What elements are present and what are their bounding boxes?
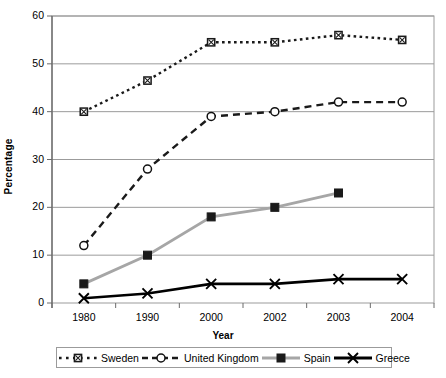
data-point-marker — [157, 354, 165, 362]
legend-label: Spain — [304, 352, 331, 364]
legend-label: United Kingdom — [184, 352, 259, 364]
legend-item-spain[interactable]: Spain — [260, 351, 332, 365]
data-point-marker — [207, 112, 215, 120]
legend-label: Greece — [376, 352, 410, 364]
data-point-marker — [144, 165, 152, 173]
figure-caption — [4, 370, 444, 378]
legend-label: Sweden — [101, 352, 139, 364]
x-axis-title: Year — [0, 330, 446, 341]
data-point-marker — [335, 189, 343, 197]
data-point-marker — [271, 203, 279, 211]
data-point-marker — [207, 213, 215, 221]
data-point-marker — [80, 280, 88, 288]
data-point-marker — [144, 251, 152, 259]
data-point-marker — [271, 108, 279, 116]
data-point-marker — [277, 354, 285, 362]
chart-legend: SwedenUnited KingdomSpainGreece — [56, 347, 392, 368]
chart-figure: Percentage 0102030405060 198019902000200… — [0, 0, 446, 378]
legend-swatch-cross-icon — [333, 351, 373, 365]
legend-swatch-square-hatched-icon — [58, 351, 98, 365]
legend-swatch-circle-open-icon — [141, 351, 181, 365]
data-point-marker — [80, 242, 88, 250]
plot-area — [0, 0, 446, 378]
legend-swatch-square-filled-icon — [261, 351, 301, 365]
data-point-marker — [398, 98, 406, 106]
legend-item-sweden[interactable]: Sweden — [57, 351, 140, 365]
legend-item-united-kingdom[interactable]: United Kingdom — [140, 351, 260, 365]
data-point-marker — [335, 98, 343, 106]
legend-item-greece[interactable]: Greece — [332, 351, 411, 365]
